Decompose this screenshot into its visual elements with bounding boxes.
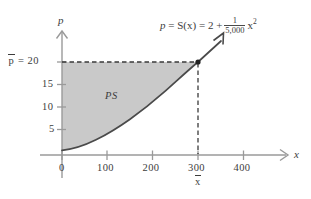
equation-equals-2: = — [199, 19, 205, 31]
equation-constant: 2 — [208, 19, 214, 31]
producer-surplus-label: PS — [105, 91, 118, 102]
equilibrium-quantity-label: x — [195, 177, 202, 188]
equation-exponent: 2 — [253, 17, 257, 26]
y-axis-label: p — [58, 15, 64, 26]
equals-sign: = — [18, 55, 24, 66]
x-tick-label-200: 200 — [143, 163, 160, 174]
x-tick-label-0: 0 — [59, 163, 65, 174]
equation-plus: + — [216, 19, 222, 31]
equation-fraction: 15,000 — [224, 16, 245, 35]
x-axis-label: x — [294, 149, 299, 160]
y-tick-label-15: 15 — [42, 79, 53, 90]
equilibrium-price-label: p = 20 — [8, 56, 39, 67]
supply-function-equation: p = S(x) = 2 +15,000x2 — [160, 17, 257, 36]
equilibrium-point-marker — [195, 59, 200, 64]
producer-surplus-area — [62, 62, 198, 150]
p-bar-symbol: p — [8, 56, 15, 67]
x-bar-symbol: x — [195, 177, 202, 188]
equation-equals-1: = — [168, 19, 174, 31]
x-tick-label-400: 400 — [234, 163, 251, 174]
equation-function: S(x) — [177, 19, 196, 31]
y-tick-label-10: 10 — [42, 102, 53, 113]
producer-surplus-figure: p x p = 20 15 10 5 0 100 200 300 400 x P… — [0, 0, 311, 199]
fraction-denominator: 5,000 — [224, 25, 245, 35]
x-tick-label-100: 100 — [97, 163, 114, 174]
y-tick-label-5: 5 — [49, 124, 55, 135]
x-tick-label-300: 300 — [188, 163, 205, 174]
equation-lhs: p — [160, 19, 166, 31]
fraction-numerator: 1 — [224, 16, 245, 25]
equilibrium-price-value: 20 — [27, 55, 39, 66]
